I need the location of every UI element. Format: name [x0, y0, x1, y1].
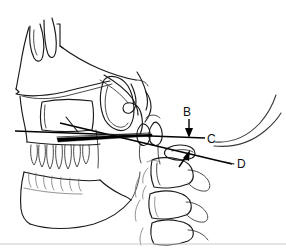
cranial-base-step	[57, 24, 63, 48]
maxillary-sinus-outline	[41, 100, 94, 132]
vertebra-transverse-process-1	[143, 168, 148, 183]
pterygoid-lateral-edge	[145, 92, 151, 122]
upper-tooth-1	[31, 145, 38, 165]
vertebra-c2-body	[151, 158, 193, 188]
upper-tooth-5	[65, 145, 72, 169]
cervical-spine-group	[135, 145, 210, 245]
vertebra-c4-body	[151, 220, 193, 245]
soft-tissue-group	[214, 95, 281, 146]
neural-arch-wisp-3	[140, 228, 143, 245]
vertebra-c2-inner	[157, 163, 160, 185]
mandible-inferior-border	[30, 200, 131, 229]
lower-tooth-1	[29, 172, 31, 187]
upper-tooth-4	[56, 145, 63, 169]
cranium-group	[16, 18, 138, 142]
mandible-ramus-anterior	[100, 180, 131, 200]
frontal-sinus-outline	[30, 24, 44, 61]
frontal-bone-contour	[16, 27, 29, 89]
anterior-cranial-base	[60, 46, 136, 80]
vertebra-c3-inner	[155, 197, 158, 217]
hyoid-fragment	[147, 161, 160, 163]
condyle-group	[137, 115, 162, 164]
pterygoid-upper-horn	[137, 72, 148, 110]
frontal-sinus-inner	[34, 30, 37, 55]
frontal-sinus-lobe-2	[44, 18, 56, 57]
condyle-head-posterior	[149, 122, 162, 145]
pterygomaxillary-fissure-inner	[105, 86, 128, 127]
upper-tooth-7	[83, 145, 90, 164]
anterior-maxilla-contour	[20, 96, 27, 142]
reference-lines-group	[15, 117, 232, 164]
posterior-pharyngeal-wall	[215, 95, 276, 142]
vertebra-transverse-process-2	[143, 186, 146, 199]
upper-tooth-3	[47, 145, 54, 169]
posterior-cranial-base	[136, 80, 148, 86]
label-c: C	[207, 132, 216, 146]
maxillary-sinus-inner	[44, 105, 46, 128]
vertebra-c3-body	[149, 191, 191, 219]
ceph-tracing-svg: B C D	[0, 0, 286, 248]
upper-tooth-2	[39, 145, 46, 167]
maxillary-alveolar-crest	[27, 142, 100, 145]
arrow-b-head	[185, 128, 193, 138]
orbital-rim-inner	[100, 80, 128, 103]
upper-tooth-6	[74, 145, 81, 167]
condyle-neck-anterior	[139, 145, 141, 163]
label-d: D	[237, 157, 246, 171]
cephalometric-figure: B C D	[0, 0, 286, 248]
label-b: B	[183, 105, 191, 119]
neural-arch-wisp-2	[135, 200, 140, 221]
vertebra-c2-spinous	[188, 170, 210, 191]
